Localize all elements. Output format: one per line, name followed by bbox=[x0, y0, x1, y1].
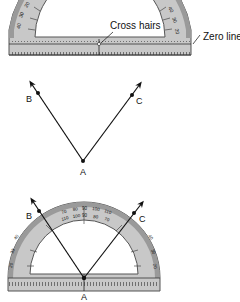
cross-hairs-label: Cross hairs bbox=[110, 20, 161, 31]
svg-text:90: 90 bbox=[82, 206, 88, 211]
zero-line-annotation: Zero line bbox=[193, 31, 240, 44]
angle-bac: B C A bbox=[26, 83, 143, 177]
point-a-measured bbox=[82, 276, 86, 280]
point-b bbox=[36, 91, 40, 95]
protractor-diagram: 20 30 40 40 30 20 Cross hairs Zero line bbox=[0, 0, 240, 302]
zero-line-label: Zero line bbox=[203, 31, 240, 42]
label-c: C bbox=[136, 96, 143, 106]
cross-hairs-mark bbox=[97, 42, 100, 45]
label-b-measured: B bbox=[26, 211, 32, 221]
label-a-measured: A bbox=[81, 292, 87, 302]
top-protractor: 20 30 40 40 30 20 bbox=[9, 0, 191, 55]
label-b: B bbox=[26, 94, 32, 104]
label-a: A bbox=[80, 167, 86, 177]
svg-text:90: 90 bbox=[82, 213, 88, 218]
point-a bbox=[81, 159, 85, 163]
point-c bbox=[130, 93, 134, 97]
label-c-measured: C bbox=[139, 214, 146, 224]
